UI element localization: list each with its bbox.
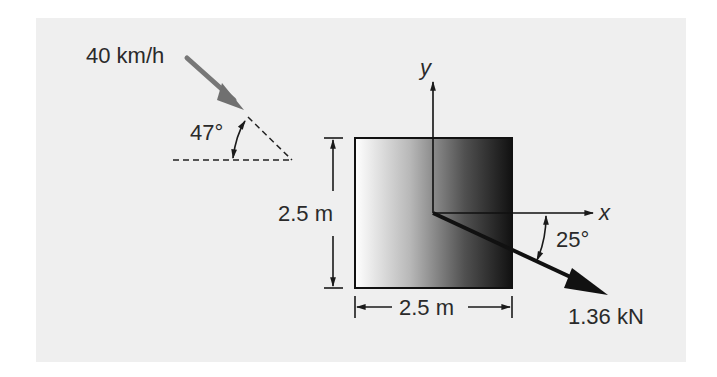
y-axis-label: y — [418, 55, 433, 80]
diagram-canvas: 40 km/h 47° 2.5 m 2.5 m y x 1.36 kN — [0, 0, 717, 377]
force-magnitude-label: 1.36 kN — [568, 304, 644, 329]
height-label: 2.5 m — [278, 201, 333, 226]
force-angle-label: 25° — [556, 227, 589, 252]
wind-speed-label: 40 km/h — [86, 43, 164, 68]
width-label: 2.5 m — [399, 295, 454, 320]
x-axis-label: x — [598, 200, 611, 225]
wind-angle-label: 47° — [190, 120, 223, 145]
